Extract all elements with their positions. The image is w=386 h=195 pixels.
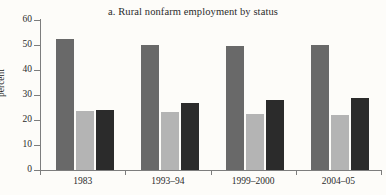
y-axis-title: percent	[0, 69, 6, 97]
bar-group	[311, 20, 369, 170]
bar-series-3-1983	[96, 110, 114, 171]
y-axis-tick-label: 30	[8, 89, 32, 99]
bars-layer	[40, 20, 381, 170]
bar-series-3-2004–05	[351, 98, 369, 170]
x-axis-tick	[211, 170, 212, 175]
y-axis-tick-label: 50	[8, 39, 32, 49]
y-axis-tick-label: 40	[8, 64, 32, 74]
y-axis-tick-label: 20	[8, 114, 32, 124]
x-axis-category-label: 1999–2000	[211, 176, 296, 186]
bar-group	[141, 20, 199, 170]
bar-series-2-2004–05	[331, 115, 349, 170]
x-axis-tick	[381, 170, 382, 175]
x-axis-category-label: 1993–94	[125, 176, 210, 186]
x-axis-tick	[296, 170, 297, 175]
bar-group	[56, 20, 114, 170]
bar-series-2-1983	[76, 111, 94, 170]
chart-figure: a. Rural nonfarm employment by status pe…	[0, 0, 386, 195]
bar-series-1-1999–2000	[226, 46, 244, 170]
bar-group	[226, 20, 284, 170]
x-axis-tick	[40, 170, 41, 175]
x-axis-tick	[125, 170, 126, 175]
bar-series-3-1993–94	[181, 103, 199, 171]
y-axis-tick-label: 0	[8, 164, 32, 174]
bar-series-1-2004–05	[311, 45, 329, 170]
y-axis-tick-label: 10	[8, 139, 32, 149]
bar-series-2-1999–2000	[246, 114, 264, 171]
x-axis-category-label: 1983	[40, 176, 125, 186]
y-axis-tick-label: 60	[8, 14, 32, 24]
bar-series-2-1993–94	[161, 112, 179, 171]
x-axis-category-label: 2004–05	[296, 176, 381, 186]
bar-series-1-1983	[56, 39, 74, 170]
chart-title: a. Rural nonfarm employment by status	[0, 6, 386, 17]
bar-series-1-1993–94	[141, 45, 159, 171]
bar-series-3-1999–2000	[266, 100, 284, 171]
